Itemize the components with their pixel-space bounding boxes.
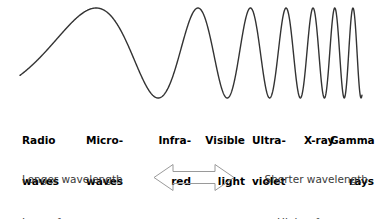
wave-graphic (0, 0, 388, 106)
property-line: Shorter wavelength (223, 172, 368, 186)
property-line: Lower frequency (22, 215, 160, 219)
property-line: Longer wavelength (22, 172, 160, 186)
longer-wavelength-properties: Longer wavelength Lower frequency Lower … (22, 144, 160, 219)
arrow-outline (154, 165, 234, 191)
shorter-wavelength-properties: Shorter wavelength Higher frequency High… (223, 144, 368, 219)
double-headed-arrow-icon (153, 163, 235, 192)
electromagnetic-spectrum-diagram: Radio waves Micro- waves Infra- red Visi… (0, 0, 388, 219)
double-headed-arrow-svg (153, 163, 235, 192)
sine-wave-path (20, 8, 362, 98)
band-label-row: Radio waves Micro- waves Infra- red Visi… (0, 107, 388, 137)
wave-svg (0, 0, 388, 106)
property-line: Higher frequency (223, 215, 368, 219)
